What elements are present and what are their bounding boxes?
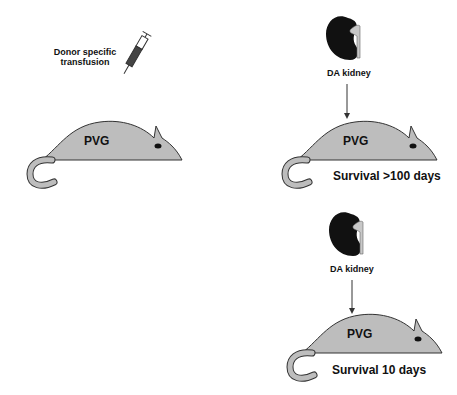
kidney-icon xyxy=(329,212,363,256)
rat-left xyxy=(30,121,182,185)
treatment-label-line2: transfusion xyxy=(50,57,120,67)
animal-label-right-top: PVG xyxy=(343,134,368,148)
outcome-label-top: Survival >100 days xyxy=(333,169,441,183)
treatment-label-line1: Donor specific xyxy=(50,47,120,57)
animal-label-right-bottom: PVG xyxy=(347,327,372,341)
syringe-icon xyxy=(120,31,152,76)
arrow-head xyxy=(349,308,355,314)
treatment-label: Donor specific transfusion xyxy=(50,47,120,67)
outcome-label-bottom: Survival 10 days xyxy=(332,363,426,377)
kidney-icon xyxy=(326,16,360,60)
organ-label-top: DA kidney xyxy=(327,68,371,78)
organ-label-bottom: DA kidney xyxy=(330,264,374,274)
animal-label-left: PVG xyxy=(84,134,109,148)
arrow-head xyxy=(344,113,350,119)
